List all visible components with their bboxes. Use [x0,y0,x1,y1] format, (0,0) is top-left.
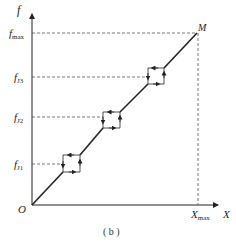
origin-label: O [18,203,26,215]
svg-text:Xmax: Xmax [190,208,210,222]
svg-text:fJ1: fJ1 [14,158,24,172]
x-axis-label: X [222,208,231,220]
x-tick-xmax: Xmax [190,208,210,222]
y-tick-fj2: fJ2 [14,111,24,125]
hysteresis-loop-1 [63,155,80,172]
hysteresis-diagram: f X O M fmax fJ3 fJ2 fJ1 Xmax ( b ) [0,0,236,248]
characteristic-line [32,33,197,205]
y-tick-fj1: fJ1 [14,158,24,172]
svg-text:fmax: fmax [9,27,25,41]
y-axis-label: f [17,3,22,17]
y-tick-fj3: fJ3 [14,71,24,85]
y-tick-fmax: fmax [9,27,25,41]
svg-text:fJ2: fJ2 [14,111,24,125]
figure-caption: ( b ) [103,226,120,238]
hysteresis-loop-3 [148,68,164,84]
hysteresis-loop-2 [103,112,120,128]
point-m-label: M [197,22,207,33]
svg-text:fJ3: fJ3 [14,71,24,85]
